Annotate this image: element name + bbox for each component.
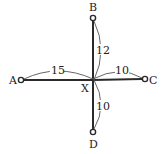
- node-d-label: D: [89, 138, 98, 151]
- distance-x-a: 15: [51, 64, 65, 77]
- distance-x-d: 10: [96, 100, 110, 113]
- distance-x-b: 12: [96, 44, 110, 57]
- node-a-label: A: [8, 74, 18, 87]
- node-c-label: C: [149, 74, 157, 87]
- center-x-label: X: [81, 82, 89, 95]
- distance-x-c: 10: [115, 64, 129, 77]
- node-b-label: B: [89, 1, 97, 14]
- node-c-marker: [142, 76, 147, 81]
- node-a-marker: [18, 77, 23, 82]
- node-d-marker: [90, 129, 95, 134]
- distance-diagram: A B C D X 15 12 10 10: [0, 0, 161, 154]
- node-b-marker: [90, 15, 95, 20]
- segment-x-c: [93, 79, 142, 80]
